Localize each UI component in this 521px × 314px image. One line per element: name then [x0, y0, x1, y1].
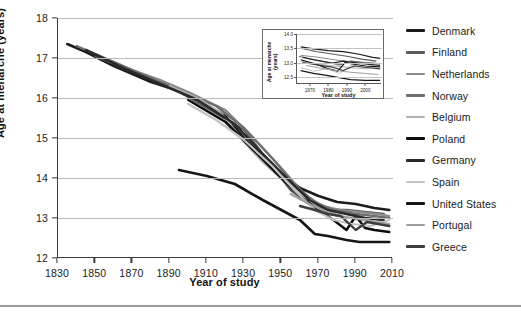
inset-y-tick-mark-12.5: [294, 77, 296, 78]
legend-swatch-spain: [406, 181, 425, 183]
y-tick-label-16: 16: [36, 92, 48, 104]
legend-swatch-greece: [406, 245, 425, 248]
gridline-y-15: [58, 138, 393, 139]
x-axis-title: Year of study: [57, 276, 392, 288]
legend-label-belgium: Belgium: [432, 111, 471, 123]
y-tick-label-13: 13: [36, 212, 48, 224]
inset-x-tick-mark-1990: [346, 84, 347, 86]
inset-x-tick-mark-1980: [328, 84, 329, 86]
gridline-y-14: [58, 178, 393, 179]
legend-swatch-netherlands: [406, 73, 425, 75]
inset-x-axis-title: Year of study: [296, 92, 381, 98]
inset-y-axis-title-line2: (years): [272, 54, 278, 70]
legend-item-belgium[interactable]: Belgium: [406, 106, 518, 128]
legend-label-germany: Germany: [432, 154, 476, 166]
series-line-spain: [188, 104, 389, 226]
legend-item-norway[interactable]: Norway: [406, 85, 518, 107]
bottom-divider: [0, 305, 521, 307]
legend-item-greece[interactable]: Greece: [406, 236, 518, 258]
x-tick-mark-1990: [354, 258, 355, 263]
y-axis-ticks: 12131415161718: [0, 18, 57, 258]
legend-item-germany[interactable]: Germany: [406, 150, 518, 172]
x-tick-mark-1910: [205, 258, 206, 263]
legend-item-spain[interactable]: Spain: [406, 171, 518, 193]
legend-swatch-norway: [406, 94, 425, 97]
x-tick-mark-1930: [242, 258, 243, 263]
legend-swatch-finland: [406, 51, 425, 54]
x-tick-mark-1970: [317, 258, 318, 263]
inset-y-tick-mark-14.0: [294, 34, 296, 35]
inset-y-tick-label-13.0: 13.0: [284, 60, 293, 65]
x-tick-mark-1850: [94, 258, 95, 263]
legend-swatch-poland: [406, 137, 425, 140]
y-tick-label-18: 18: [36, 12, 48, 24]
legend-label-greece: Greece: [432, 241, 467, 253]
inset-gridline-14.0: [297, 34, 382, 35]
inset-gridline-13.0: [297, 63, 382, 64]
inset-gridline-13.5: [297, 48, 382, 49]
x-tick-mark-2010: [391, 258, 392, 263]
legend-label-spain: Spain: [432, 176, 459, 188]
legend-label-portugal: Portugal: [432, 219, 472, 231]
menarche-age-figure: Age at menarche (years) 12131415161718 1…: [0, 0, 521, 314]
legend-item-finland[interactable]: Finland: [406, 42, 518, 64]
inset-chart: Age at menarche (years) 14.013.513.012.5…: [262, 29, 384, 99]
inset-y-axis-title: Age at menarche (years): [266, 42, 278, 82]
legend-label-finland: Finland: [432, 46, 467, 58]
inset-y-tick-mark-13.0: [294, 63, 296, 64]
inset-plot-area: 14.013.513.012.51970198019902000: [296, 34, 381, 84]
legend-swatch-belgium: [406, 116, 425, 118]
inset-gridline-12.5: [297, 77, 382, 78]
y-tick-label-14: 14: [36, 172, 48, 184]
legend-item-portugal[interactable]: Portugal: [406, 214, 518, 236]
legend: DenmarkFinlandNetherlandsNorwayBelgiumPo…: [406, 20, 518, 258]
x-tick-mark-1830: [56, 258, 57, 263]
x-tick-mark-1890: [168, 258, 169, 263]
inset-x-tick-mark-2000: [365, 84, 366, 86]
legend-item-netherlands[interactable]: Netherlands: [406, 63, 518, 85]
inset-y-tick-label-12.5: 12.5: [284, 74, 293, 79]
inset-x-tick-mark-1970: [309, 84, 310, 86]
inset-y-tick-label-13.5: 13.5: [284, 46, 293, 51]
legend-swatch-germany: [406, 159, 425, 162]
legend-swatch-denmark: [406, 29, 425, 32]
inset-y-tick-label-14.0: 14.0: [284, 32, 293, 37]
legend-label-netherlands: Netherlands: [432, 68, 490, 80]
legend-label-united-states: United States: [432, 198, 496, 210]
legend-label-denmark: Denmark: [432, 25, 475, 37]
legend-swatch-united-states: [406, 202, 425, 205]
gridline-y-18: [58, 18, 393, 19]
y-tick-label-15: 15: [36, 132, 48, 144]
legend-label-poland: Poland: [432, 133, 465, 145]
y-tick-label-17: 17: [36, 52, 48, 64]
gridline-y-13: [58, 218, 393, 219]
legend-item-united-states[interactable]: United States: [406, 193, 518, 215]
legend-label-norway: Norway: [432, 90, 468, 102]
inset-series-line-united-states: [301, 71, 380, 81]
x-tick-mark-1950: [280, 258, 281, 263]
inset-y-tick-mark-13.5: [294, 48, 296, 49]
legend-item-poland[interactable]: Poland: [406, 128, 518, 150]
legend-item-denmark[interactable]: Denmark: [406, 20, 518, 42]
x-tick-mark-1870: [131, 258, 132, 263]
legend-swatch-portugal: [406, 224, 425, 226]
y-tick-label-12: 12: [36, 252, 48, 264]
